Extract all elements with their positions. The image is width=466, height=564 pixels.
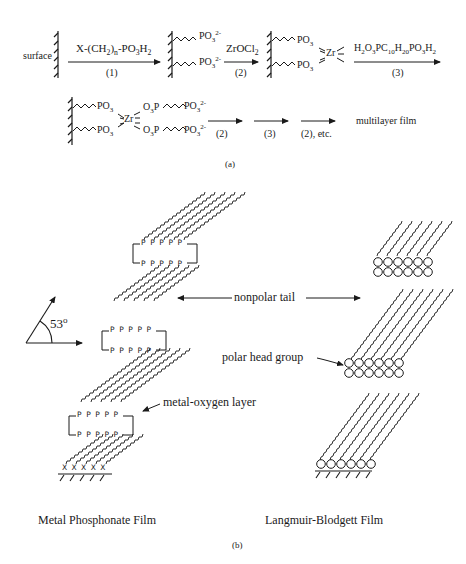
phosphonate-zr-top: PO3 xyxy=(297,34,313,45)
reagent-step-1: X-(CH2)n-PO3H2 xyxy=(76,42,151,54)
title-metal-phosphonate-film: Metal Phosphonate Film xyxy=(38,513,156,528)
reagent-step-2: ZrOCl2 xyxy=(226,42,259,54)
lb-chains xyxy=(320,221,453,460)
diagram-graphics xyxy=(0,0,466,564)
row2-link-bottom: O3P xyxy=(143,124,159,135)
repeat-step-3: (2), etc. xyxy=(301,128,332,139)
title-langmuir-blodgett-film: Langmuir-Blodgett Film xyxy=(265,513,383,528)
phosphonate-zr-bottom: PO3 xyxy=(297,59,313,70)
label-polar-head-group: polar head group xyxy=(222,350,303,365)
chains-top-block xyxy=(144,192,245,240)
anchor-row: XXXXX xyxy=(62,463,110,472)
substrate-right xyxy=(315,471,372,478)
surface-hatch-3 xyxy=(267,31,271,78)
step-number-3: (3) xyxy=(392,67,404,78)
lb-head-groups xyxy=(317,258,433,469)
label-metal-oxygen-layer: metal-oxygen layer xyxy=(163,395,256,410)
surface-label: surface xyxy=(23,50,52,61)
phosphonate-group-bottom: PO32- xyxy=(199,56,221,67)
surface-hatch-1 xyxy=(54,31,58,78)
panel-label-a: (a) xyxy=(225,159,235,169)
arrow-metal-oxygen xyxy=(143,404,160,411)
phosphorus-row-6: PPPPP xyxy=(77,430,123,439)
zirconium-label-2: Zr xyxy=(124,113,133,124)
row2-phosphonate-top: PO3 xyxy=(97,100,113,111)
panel-label-b: (b) xyxy=(232,540,243,550)
row2-phosphonate-bottom: PO3 xyxy=(97,124,113,135)
lb-chains-top xyxy=(377,221,452,256)
phosphorus-row-3: PPPPP xyxy=(110,325,156,334)
phosphorus-row-4: PPPPP xyxy=(110,346,156,355)
step-number-2: (2) xyxy=(235,67,247,78)
reagent-step-3: H2O3PC10H20PO3H2 xyxy=(354,42,436,53)
product-label: multilayer film xyxy=(356,115,416,126)
phosphorus-row-5: PPPPP xyxy=(77,410,123,419)
row2-link-top: O3P xyxy=(143,101,159,112)
lb-chains-middle xyxy=(348,289,453,364)
zirconium-label-1: Zr xyxy=(326,47,335,58)
chains-middle-block xyxy=(114,265,199,301)
repeat-step-2: (3) xyxy=(264,128,276,139)
label-nonpolar-tail: nonpolar tail xyxy=(234,290,295,305)
substrate-left xyxy=(58,474,112,481)
phosphorus-row-1: PPPPP xyxy=(141,238,187,247)
lb-chains-bottom xyxy=(320,393,419,460)
row2-end-bottom: PO32- xyxy=(184,124,206,135)
angle-label: 53o xyxy=(50,316,68,332)
step-number-1: (1) xyxy=(106,67,118,78)
phosphonate-group-top: PO32- xyxy=(199,30,221,41)
phosphorus-row-2: PPPPP xyxy=(141,259,187,268)
alkyl-chains-1 xyxy=(173,37,196,66)
surface-hatch-2 xyxy=(168,31,172,78)
repeat-step-1: (2) xyxy=(216,128,228,139)
row2-end-top: PO32- xyxy=(184,100,206,111)
arrow-polar-head xyxy=(317,358,343,365)
surface-hatch-4 xyxy=(68,97,72,145)
chains-lower-block xyxy=(81,348,190,402)
